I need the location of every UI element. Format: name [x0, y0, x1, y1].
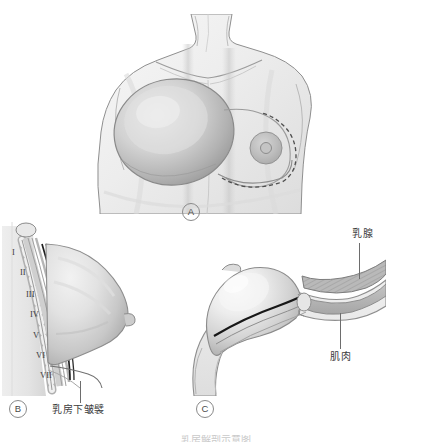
- rib-numeral-vii: VII: [40, 371, 52, 380]
- figure-root: A: [0, 0, 431, 442]
- nipple-c: [222, 264, 241, 272]
- panel-badge-b: B: [9, 400, 27, 418]
- figure-caption-strip: 乳房解剖示意图: [0, 435, 431, 442]
- nipple: [261, 143, 272, 154]
- inframammary-fold-leader: [80, 381, 81, 403]
- rib-numeral-iii: III: [26, 290, 35, 299]
- mammary-gland-leader: [359, 243, 360, 279]
- mammary-gland-region: [302, 260, 386, 293]
- panel-c-illustration: [186, 244, 386, 396]
- panel-badge-c: C: [196, 400, 214, 418]
- rib-numeral-vi: VI: [36, 351, 45, 360]
- rib-numeral-ii: II: [20, 268, 26, 277]
- mammary-gland-label: 乳腺: [352, 228, 373, 240]
- rib-numeral-v: V: [33, 331, 39, 340]
- inframammary-fold-label: 乳房下皱襞: [52, 404, 105, 416]
- panel-badge-a: A: [182, 203, 200, 221]
- muscle-leader: [340, 313, 341, 349]
- rib-numeral-iv: IV: [30, 310, 39, 319]
- rib-numeral-i: I: [12, 248, 15, 257]
- first-rib: [16, 223, 36, 237]
- muscle-label: 肌肉: [330, 351, 351, 363]
- breast-profile: [46, 244, 128, 365]
- panel-b-illustration: [2, 218, 152, 396]
- panel-a-illustration: [96, 14, 336, 214]
- figure-caption-text: 乳房解剖示意图: [0, 435, 431, 442]
